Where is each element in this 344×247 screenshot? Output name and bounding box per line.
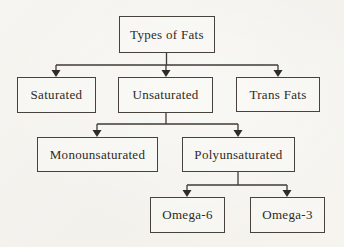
node-polyunsaturated: Polyunsaturated [182,137,295,172]
node-label: Omega-6 [162,207,212,223]
node-types-of-fats: Types of Fats [119,16,215,53]
node-label: Trans Fats [249,87,306,103]
arrow-down-icon [183,190,192,197]
node-label: Omega-3 [262,207,312,223]
arrow-down-icon [52,70,61,77]
node-label: Unsaturated [132,87,198,103]
arrow-down-icon [93,130,102,137]
fats-flowchart: Types of Fats Saturated Unsaturated Tran… [0,0,344,247]
arrow-down-icon [283,190,292,197]
node-label: Monounsaturated [50,147,145,163]
node-label: Saturated [31,87,83,103]
node-omega-3: Omega-3 [250,197,325,233]
arrow-down-icon [162,70,171,77]
node-label: Polyunsaturated [194,147,282,163]
node-trans-fats: Trans Fats [236,77,320,112]
node-monounsaturated: Monounsaturated [37,137,158,172]
arrow-down-icon [274,70,283,77]
arrow-down-icon [234,130,243,137]
node-saturated: Saturated [17,77,96,113]
node-unsaturated: Unsaturated [118,77,213,113]
node-omega-6: Omega-6 [150,197,225,233]
node-label: Types of Fats [130,27,204,43]
